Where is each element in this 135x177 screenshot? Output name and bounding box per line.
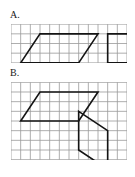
panel-b-label: B. — [10, 68, 19, 78]
panel-a-shapes — [21, 34, 127, 63]
parallelogram-right — [79, 111, 108, 160]
panel-b: B. — [0, 66, 135, 176]
panel-a-gridlines — [11, 24, 127, 63]
panel-a-grid-svg — [11, 24, 127, 63]
panel-a-grid-wrap — [11, 24, 127, 63]
panel-b-grid-wrap — [11, 82, 127, 160]
panel-b-grid-svg — [11, 82, 127, 160]
panel-a-label: A. — [10, 10, 20, 20]
figure-root: A. B. — [0, 0, 135, 177]
panel-a: A. — [0, 8, 135, 70]
